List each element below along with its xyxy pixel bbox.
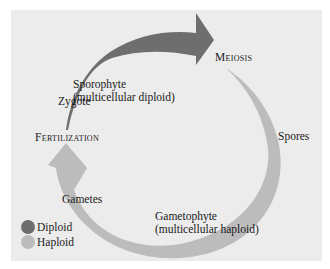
meiosis-label: Meiosis xyxy=(215,51,252,64)
zygote-label: Zygote xyxy=(58,95,91,108)
legend-item-haploid: Haploid xyxy=(21,235,74,249)
spores-label: Spores xyxy=(278,130,309,143)
diploid-swatch-icon xyxy=(21,220,35,234)
diploid-phase-arrow xyxy=(66,13,214,130)
legend-item-diploid: Diploid xyxy=(21,220,72,234)
haploid-swatch-icon xyxy=(21,235,35,249)
gametes-label: Gametes xyxy=(62,193,102,206)
fertilization-label: Fertilization xyxy=(35,131,99,144)
gametophyte-label: Gametophyte (multicellular haploid) xyxy=(155,210,259,236)
